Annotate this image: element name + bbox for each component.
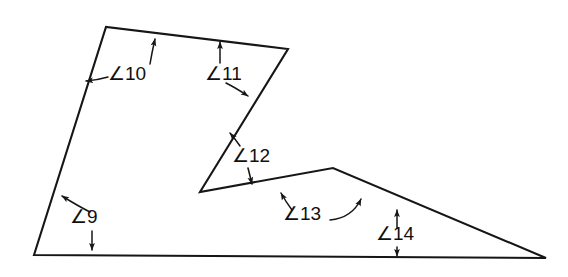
angle-label-11: ∠11 xyxy=(205,63,242,84)
angle-11-leader-lower xyxy=(226,83,248,96)
diagram-canvas: ∠9 ∠10 ∠11 ∠12 ∠13 ∠14 xyxy=(0,0,568,277)
angle-label-10: ∠10 xyxy=(108,63,146,84)
angle-13-leader-right xyxy=(330,199,361,220)
angle-10-leader-upper xyxy=(150,39,155,64)
angle-label-12: ∠12 xyxy=(232,145,270,166)
geometry-figure: ∠9 ∠10 ∠11 ∠12 ∠13 ∠14 xyxy=(0,0,568,277)
angle-12-leader-lower xyxy=(248,168,252,184)
angle-label-9: ∠9 xyxy=(70,206,98,227)
angle-label-13: ∠13 xyxy=(283,203,321,224)
angle-label-14: ∠14 xyxy=(376,223,415,244)
